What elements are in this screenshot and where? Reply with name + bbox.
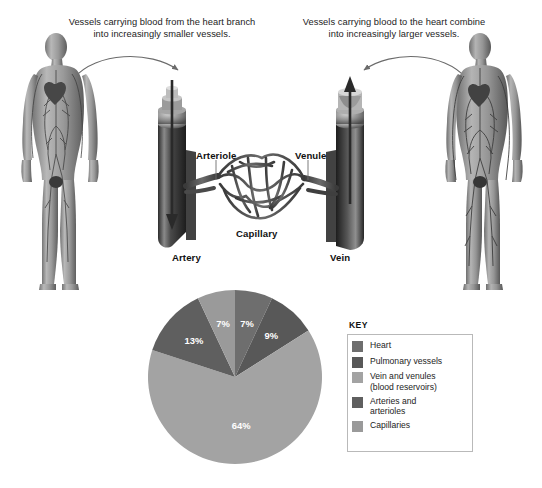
venule-vessel (304, 178, 336, 194)
key-item-label: Arteries and arterioles (370, 396, 416, 417)
key-item-label: Vein and venules (blood reservoirs) (370, 371, 437, 392)
pie-chart: 7%9%64%13%7% (147, 289, 323, 465)
pie-slice-label: 7% (240, 318, 254, 329)
capillary-bed (218, 155, 304, 219)
key-swatch-icon (352, 341, 363, 352)
pie-slice-group (148, 290, 322, 464)
key-item: Vein and venules (blood reservoirs) (352, 371, 474, 392)
label-artery: Artery (172, 252, 201, 263)
body-figure-right (432, 30, 536, 292)
key-swatch-icon (352, 357, 363, 368)
arteriole-vessel (186, 176, 218, 192)
key-item: Pulmonary vessels (352, 356, 474, 368)
key-list: HeartPulmonary vesselsVein and venules (… (352, 340, 474, 436)
pie-slice-label: 13% (185, 335, 204, 346)
key-swatch-icon (352, 372, 363, 383)
body-figure-left (8, 30, 112, 292)
label-capillary: Capillary (236, 228, 277, 239)
artery-flow-arrow-icon (166, 80, 178, 230)
artery-vessel (158, 80, 196, 248)
key-swatch-icon (352, 397, 363, 408)
pie-slice-label: 64% (232, 420, 251, 431)
vein-flow-arrow-icon (344, 76, 356, 204)
vein-vessel (326, 76, 364, 250)
key-title: KEY (349, 320, 368, 330)
pie-slice-label: 7% (216, 318, 230, 329)
key-item-label: Pulmonary vessels (370, 356, 442, 367)
label-venule: Venule (295, 150, 327, 161)
key-item: Heart (352, 340, 474, 352)
label-vein: Vein (330, 252, 350, 263)
pie-slice-label: 9% (264, 330, 278, 341)
key-item: Capillaries (352, 420, 474, 432)
pie-chart-svg: 7%9%64%13%7% (147, 289, 323, 465)
key-item: Arteries and arterioles (352, 396, 474, 417)
key-item-label: Heart (370, 340, 391, 351)
key-item-label: Capillaries (370, 420, 410, 431)
key-swatch-icon (352, 421, 363, 432)
label-arteriole: Arteriole (196, 150, 236, 161)
figure-canvas: Vessels carrying blood from the heart br… (0, 0, 542, 488)
